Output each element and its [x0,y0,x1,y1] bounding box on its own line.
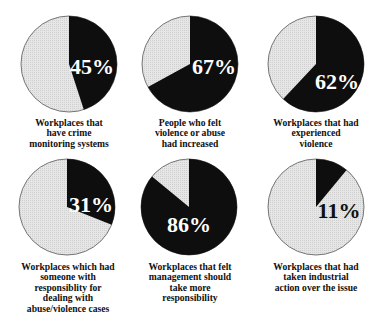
pie-percentage-label: 86% [167,212,211,237]
pie-crime-monitoring: 45% [21,16,117,112]
pie-industrial-action: 11% [268,159,364,255]
pie-percentage-label: 11% [318,198,361,223]
pie-violence-increased: 67% [142,16,238,112]
pie-percentage-label: 45% [70,54,114,79]
caption-industrial-action: Workplaces that had taken industrial act… [251,262,381,293]
caption-violence-increased: People who felt violence or abuse had in… [125,118,255,149]
pie-responsibility-person: 31% [19,159,115,255]
pie-percentage-label: 62% [315,69,359,94]
pie-experienced-violence: 62% [268,16,364,112]
caption-experienced-violence: Workplaces that had experienced violence [251,118,381,149]
caption-crime-monitoring: Workplaces that have crime monitoring sy… [4,118,134,149]
pie-management-responsibility: 86% [141,159,237,255]
caption-management-responsibility: Workplaces that felt management should t… [125,262,255,304]
pie-percentage-label: 31% [69,192,113,217]
pie-percentage-label: 67% [192,54,236,79]
caption-responsibility-person: Workplaces which had someone with respon… [3,262,133,314]
